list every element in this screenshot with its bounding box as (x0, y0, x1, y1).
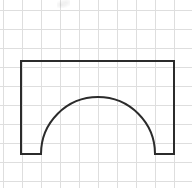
figure-svg (0, 0, 192, 188)
figure-canvas (0, 0, 192, 188)
canvas-background (0, 0, 192, 188)
